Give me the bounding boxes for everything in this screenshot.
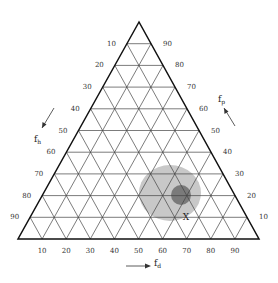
grid-line-right-parallel <box>103 87 187 239</box>
bottom-tick-label: 80 <box>206 247 215 255</box>
right-tick-label: 20 <box>247 192 256 200</box>
right-tick-label: 30 <box>235 170 244 178</box>
left-tick-label: 30 <box>83 83 92 91</box>
grid-layer <box>30 44 247 239</box>
bottom-tick-label: 30 <box>86 247 95 255</box>
bottom-tick-label: 90 <box>230 247 239 255</box>
grid-line-right-parallel <box>30 217 42 239</box>
right-tick-label: 50 <box>211 127 220 135</box>
left-tick-label: 40 <box>71 105 80 113</box>
left-tick-label: 10 <box>107 40 116 48</box>
right-axis-label: fp <box>218 94 225 106</box>
left-tick-label: 20 <box>95 61 104 69</box>
left-axis-label: fh <box>34 134 41 145</box>
bottom-tick-label: 60 <box>158 247 167 255</box>
left-tick-label: 70 <box>34 170 43 178</box>
dark-region <box>171 185 191 205</box>
right-tick-label: 40 <box>223 148 232 156</box>
right-tick-label: 80 <box>175 61 184 69</box>
left-tick-label: 60 <box>46 148 55 156</box>
right-tick-label: 10 <box>259 213 268 221</box>
ternary-plot: 102030405060708090 908070605040302010 10… <box>0 0 278 283</box>
bottom-tick-label: 50 <box>134 247 143 255</box>
grid-line-right-parallel <box>54 174 90 239</box>
right-tick-label: 60 <box>199 105 208 113</box>
grid-line-left-parallel <box>235 217 247 239</box>
point-marker-x: X <box>183 212 190 222</box>
bottom-tick-label: 40 <box>110 247 119 255</box>
bottom-axis-label: fd <box>154 258 161 269</box>
bottom-tick-label: 70 <box>182 247 191 255</box>
bottom-tick-label: 20 <box>62 247 71 255</box>
left-axis-arrow-icon <box>42 108 54 128</box>
right-axis-arrow-icon <box>224 108 235 126</box>
right-tick-label: 90 <box>163 40 172 48</box>
grid-line-right-parallel <box>79 131 139 240</box>
grid-line-left-parallel <box>42 44 151 239</box>
ternary-diagram: 102030405060708090 908070605040302010 10… <box>0 0 278 283</box>
bottom-axis-arrow-icon <box>126 264 151 269</box>
left-tick-label: 80 <box>22 192 31 200</box>
left-tick-label: 50 <box>59 127 68 135</box>
right-tick-label: 70 <box>187 83 196 91</box>
bottom-axis-ticks: 102030405060708090 <box>38 247 240 255</box>
left-tick-label: 90 <box>10 213 19 221</box>
bottom-tick-label: 10 <box>38 247 47 255</box>
